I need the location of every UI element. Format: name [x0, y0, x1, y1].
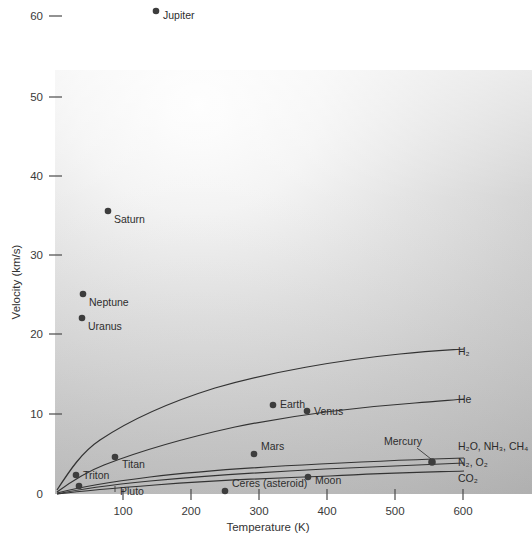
point-label-jupiter: Jupiter [163, 9, 195, 21]
dot-pluto [76, 483, 83, 490]
escape-velocity-chart: 60 50 40 30 20 10 0 Velocity (km/s) [0, 0, 532, 533]
x-tick-label-600: 600 [453, 505, 472, 517]
point-label-titan: Titan [122, 458, 145, 470]
dot-neptune [80, 291, 87, 298]
dot-mercury [428, 458, 436, 466]
point-label-triton: Triton [83, 469, 110, 481]
point-label-pluto: Pluto [120, 485, 144, 497]
x-tick-label-300: 300 [249, 505, 268, 517]
point-label-neptune: Neptune [89, 296, 129, 308]
chart-svg: 60 50 40 30 20 10 0 Velocity (km/s) [0, 0, 532, 533]
dot-mars [251, 451, 258, 458]
y-tick-label-40: 40 [30, 170, 43, 182]
x-tick-label-400: 400 [317, 505, 336, 517]
y-tick-label-60: 60 [30, 10, 43, 22]
data-point-jupiter: Jupiter [153, 8, 195, 21]
dot-triton [73, 472, 80, 479]
dot-venus [304, 408, 311, 415]
point-label-venus: Venus [314, 405, 343, 417]
curve-label-co2: CO₂ [458, 472, 478, 484]
dot-moon [305, 474, 312, 481]
y-axis-title: Velocity (km/s) [10, 244, 22, 319]
y-tick-label-50: 50 [30, 91, 43, 103]
point-label-uranus: Uranus [88, 320, 122, 332]
point-label-mercury: Mercury [384, 435, 423, 447]
y-tick-label-30: 30 [30, 249, 43, 261]
dot-jupiter [153, 8, 160, 15]
dot-saturn [105, 208, 112, 215]
dot-ceres [222, 488, 229, 495]
point-label-earth: Earth [280, 398, 305, 410]
point-label-ceres: Ceres (asteroid) [232, 477, 307, 489]
y-tick-60: 60 [30, 10, 62, 22]
curve-label-n2-o2: N₂, O₂ [458, 456, 488, 468]
x-tick-label-200: 200 [181, 505, 200, 517]
dot-uranus [79, 315, 86, 322]
x-tick-label-500: 500 [385, 505, 404, 517]
point-label-moon: Moon [315, 474, 341, 486]
x-tick-label-100: 100 [113, 505, 132, 517]
y-tick-label-10: 10 [30, 408, 43, 420]
point-label-saturn: Saturn [114, 213, 145, 225]
curve-label-h2: H₂ [458, 345, 470, 357]
y-tick-0: 0 [37, 488, 43, 500]
y-tick-label-20: 20 [30, 328, 43, 340]
curve-label-he: He [458, 393, 472, 405]
dot-titan [112, 454, 119, 461]
point-label-mars: Mars [261, 440, 284, 452]
x-axis-title: Temperature (K) [226, 521, 309, 533]
curve-label-h2o-nh3-ch4: H₂O, NH₃, CH₄ [458, 440, 528, 452]
plot-area-vignette [55, 70, 532, 494]
dot-earth [270, 402, 277, 409]
y-tick-label-0: 0 [37, 488, 43, 500]
